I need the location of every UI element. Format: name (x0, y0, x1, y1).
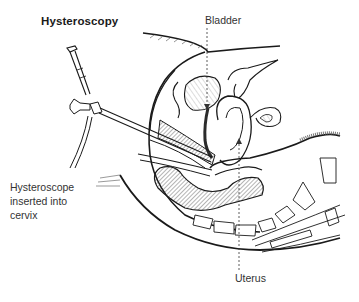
label-hysteroscope-line-2: inserted into (10, 194, 90, 208)
label-hysteroscope-line-3: cervix (10, 208, 90, 222)
hysteroscopy-diagram: Hysteroscopy Bladder Uterus Hysteroscope… (0, 0, 359, 302)
anatomy-illustration (0, 0, 359, 302)
label-hysteroscope: Hysteroscope inserted into cervix (10, 180, 90, 222)
uterus-organ (205, 96, 281, 165)
label-hysteroscope-line-1: Hysteroscope (10, 180, 90, 194)
diagram-title: Hysteroscopy (41, 15, 118, 27)
label-bladder: Bladder (205, 13, 241, 27)
label-uterus: Uterus (235, 271, 266, 285)
